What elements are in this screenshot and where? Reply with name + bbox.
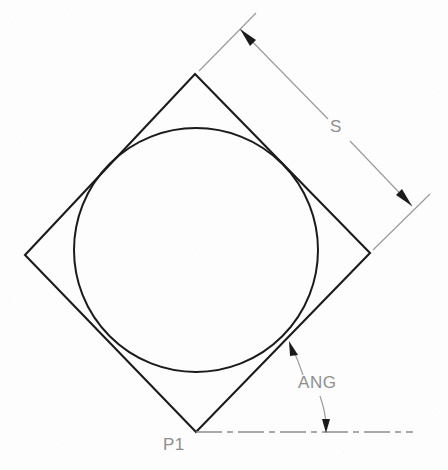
ang-arrow-head-upper	[289, 341, 298, 356]
ang-arrow-head-lower	[322, 419, 330, 433]
s-dimension-label: S	[330, 117, 342, 136]
ang-dimension-label: ANG	[298, 373, 337, 392]
p1-point-label: P1	[163, 435, 185, 454]
s-extension-line-right	[373, 194, 430, 250]
s-extension-line-top	[199, 13, 256, 71]
drawing-svg: S ANG P1	[0, 0, 448, 470]
technical-drawing-canvas: S ANG P1	[0, 0, 448, 470]
